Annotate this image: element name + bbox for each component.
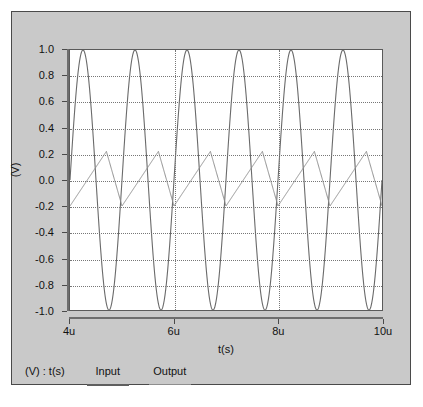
y-tick-mark [62,285,67,286]
legend-title: (V) : t(s) [25,365,65,378]
x-axis-title: t(s) [69,343,383,355]
x-tick-label: 8u [272,325,284,337]
x-tick-label: 10u [374,325,392,337]
plot-area [69,49,383,311]
gridline-horizontal [70,286,382,287]
x-tick-mark [174,319,175,324]
gridline-horizontal [70,181,382,182]
y-tick-label: 0.6 [39,95,54,107]
y-axis-labels: 1.00.80.60.40.20.0-0.2-0.4-0.6-0.8-1.0 [12,49,62,311]
y-tick-mark [62,259,67,260]
y-tick-mark [62,49,67,50]
y-tick-label: -0.2 [35,200,54,212]
y-tick-mark [62,154,67,155]
plot-panel: 1.00.80.60.40.20.0-0.2-0.4-0.6-0.8-1.0 (… [11,11,411,385]
gridline-horizontal [70,233,382,234]
chart-screenshot: 1.00.80.60.40.20.0-0.2-0.4-0.6-0.8-1.0 (… [0,0,423,407]
gridline-horizontal [70,155,382,156]
y-tick-label: -1.0 [35,305,54,317]
x-tick-label: 4u [63,325,75,337]
gridline-horizontal [70,102,382,103]
y-tick-label: 0.4 [39,122,54,134]
y-tick-label: -0.8 [35,279,54,291]
y-tick-mark [62,101,67,102]
y-tick-mark [62,311,67,312]
x-tick-mark [278,319,279,324]
y-tick-label: 0.8 [39,69,54,81]
x-tick-mark [383,319,384,324]
x-axis-labels: 4u6u8u10u [69,325,383,341]
plot-inner [70,50,382,310]
y-tick-label: 0.2 [39,148,54,160]
gridline-horizontal [70,129,382,130]
y-tick-label: 1.0 [39,43,54,55]
gridline-horizontal [70,76,382,77]
x-tick-mark [69,319,70,324]
y-tick-mark [62,232,67,233]
legend-item-input[interactable]: Input [87,365,129,386]
series-canvas [70,50,382,310]
gridline-vertical [175,50,176,310]
gridline-horizontal [70,260,382,261]
legend-label-output: Output [149,365,191,378]
legend-swatch-output [149,384,191,385]
legend: (V) : t(s) Input Output [25,365,211,391]
legend-label-input: Input [87,365,129,378]
y-tick-mark [62,75,67,76]
x-tick-label: 6u [168,325,180,337]
y-tick-mark [62,180,67,181]
y-tick-mark [62,206,67,207]
gridline-horizontal [70,207,382,208]
legend-item-output[interactable]: Output [149,365,191,385]
y-tick-label: -0.4 [35,226,54,238]
y-axis-title: (V) [9,163,21,178]
gridline-vertical [279,50,280,310]
series-line-input [70,50,382,310]
y-tick-label: -0.6 [35,253,54,265]
y-tick-mark [62,128,67,129]
y-tick-label: 0.0 [39,174,54,186]
legend-swatch-input [87,384,129,386]
